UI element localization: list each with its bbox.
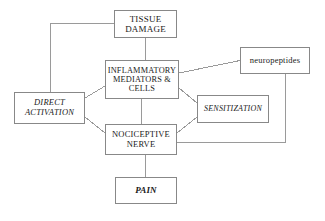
edge-direct-activation-to-nociceptive-nerve: [85, 117, 105, 133]
node-sensitization[interactable]: SENSITIZATION: [197, 95, 269, 123]
node-pain-label: PAIN: [116, 185, 176, 195]
node-direct-activation[interactable]: DIRECT ACTIVATION: [14, 92, 85, 124]
node-tissue-damage-label: TISSUE DAMAGE: [115, 14, 176, 34]
node-neuropeptides[interactable]: neuropeptides: [240, 47, 310, 74]
edge-inflammatory-to-sensitization: [179, 88, 197, 103]
pain-pathway-diagram: TISSUE DAMAGE INFLAMMATORY MEDIATORS & C…: [0, 0, 325, 221]
edge-inflammatory-to-direct-activation: [85, 86, 105, 98]
node-nociceptive-nerve[interactable]: NOCICEPTIVE NERVE: [105, 124, 177, 155]
node-inflammatory-mediators-and-cells[interactable]: INFLAMMATORY MEDIATORS & CELLS: [105, 60, 179, 99]
edge-sensitization-to-nociceptive-nerve: [177, 117, 197, 133]
node-neuropeptides-label: neuropeptides: [241, 56, 309, 66]
node-inflammatory-mediators-and-cells-label: INFLAMMATORY MEDIATORS & CELLS: [106, 66, 178, 94]
node-tissue-damage[interactable]: TISSUE DAMAGE: [114, 10, 177, 38]
node-direct-activation-label: DIRECT ACTIVATION: [15, 98, 84, 117]
node-sensitization-label: SENSITIZATION: [198, 105, 268, 114]
node-nociceptive-nerve-label: NOCICEPTIVE NERVE: [106, 130, 176, 149]
edge-inflammatory-to-neuropeptides: [179, 61, 240, 74]
node-pain[interactable]: PAIN: [115, 177, 177, 204]
